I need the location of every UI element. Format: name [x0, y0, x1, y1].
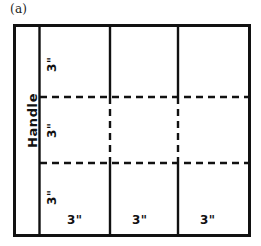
row-1-height-label: 3" [45, 57, 59, 72]
handle-label: Handle [25, 93, 40, 148]
row-2-height-label: 3" [45, 123, 59, 138]
figure-container: (a) Handle 3" 3" 3" [0, 0, 261, 246]
col-3-width-label: 3" [200, 213, 215, 227]
col-1-width-label: 3" [67, 213, 82, 227]
col-2-width-label: 3" [132, 213, 147, 227]
row-3-height-label: 3" [45, 190, 59, 205]
